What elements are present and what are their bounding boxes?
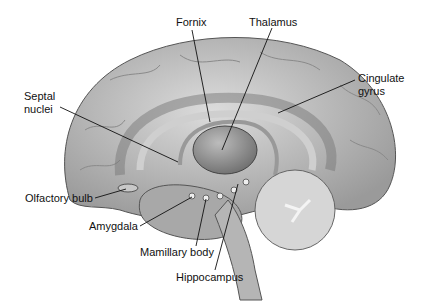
brain-diagram: Fornix Thalamus Cingulate gyrus Septal n… [0,0,424,308]
label-olfactory-bulb: Olfactory bulb [25,192,93,204]
label-septal-nuclei-line1: Septal [24,90,55,102]
label-fornix: Fornix [176,16,207,28]
cerebellum [255,170,335,250]
label-mamillary-body: Mamillary body [140,246,214,258]
label-cingulate-gyrus-line2: gyrus [358,85,385,97]
label-hippocampus: Hippocampus [176,271,243,283]
thalamus-shape [193,126,257,174]
brain-illustration [0,0,424,308]
label-amygdala: Amygdala [89,220,138,232]
label-thalamus: Thalamus [249,16,297,28]
label-cingulate-gyrus-line1: Cingulate [358,72,404,84]
label-septal-nuclei-line2: nuclei [24,103,53,115]
